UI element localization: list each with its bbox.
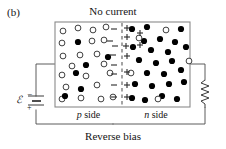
battery-negative-terminal-label: − xyxy=(27,90,32,99)
hole-marker xyxy=(60,53,66,59)
electron-marker xyxy=(178,67,184,73)
hole-marker xyxy=(128,70,134,76)
electron-marker xyxy=(174,96,180,102)
diagram-title: No current xyxy=(0,6,226,17)
hole-marker xyxy=(107,70,113,76)
wire-right-upper xyxy=(190,64,205,80)
figure-reverse-bias-pn-junction: (b) No current p side n side ℰ − + Rever… xyxy=(0,0,226,149)
electron-marker xyxy=(144,70,150,76)
electron-marker xyxy=(75,39,81,45)
electron-marker xyxy=(157,36,163,42)
electron-marker xyxy=(165,49,171,55)
resistor-symbol xyxy=(201,80,209,108)
hole-marker xyxy=(155,96,161,102)
electron-marker xyxy=(129,26,135,32)
electron-marker xyxy=(148,47,154,53)
electron-marker xyxy=(172,39,178,45)
diagram-caption: Reverse bias xyxy=(0,131,226,142)
electron-marker xyxy=(73,70,79,76)
electron-marker xyxy=(183,44,189,50)
electron-marker xyxy=(136,57,142,63)
hole-marker xyxy=(63,84,69,90)
p-side-label-rest: side xyxy=(82,109,101,120)
electron-marker xyxy=(132,81,138,87)
hole-marker xyxy=(136,35,142,41)
hole-marker xyxy=(98,96,104,102)
electron-marker xyxy=(142,97,148,103)
hole-marker xyxy=(101,61,107,67)
electron-marker xyxy=(129,95,135,101)
wire-left-upper xyxy=(36,64,55,96)
hole-marker xyxy=(59,72,65,78)
hole-marker xyxy=(60,28,66,34)
electron-marker xyxy=(83,62,89,68)
n-side-label-rest: side xyxy=(149,109,168,120)
electron-marker xyxy=(130,44,136,50)
hole-marker xyxy=(75,25,81,31)
electron-marker xyxy=(144,24,150,30)
hole-marker xyxy=(103,24,109,30)
electron-marker xyxy=(78,86,84,92)
hole-marker xyxy=(69,63,75,69)
hole-marker xyxy=(101,37,107,43)
emf-symbol-label: ℰ xyxy=(16,95,22,105)
hole-marker xyxy=(163,27,169,33)
hole-marker xyxy=(94,51,100,57)
hole-marker xyxy=(94,82,100,88)
electron-marker xyxy=(153,60,159,66)
electron-marker xyxy=(181,79,187,85)
n-side-label: n side xyxy=(122,110,190,120)
resistor-zigzag xyxy=(201,80,209,108)
battery-positive-terminal-label: + xyxy=(27,104,32,112)
hole-marker xyxy=(89,38,95,44)
hole-marker xyxy=(186,58,192,64)
electron-marker xyxy=(149,83,155,89)
hole-marker xyxy=(59,40,65,46)
electron-marker xyxy=(169,58,175,64)
electron-marker xyxy=(161,71,167,77)
hole-marker xyxy=(83,73,89,79)
hole-marker xyxy=(78,95,84,101)
diagram-canvas xyxy=(0,0,226,149)
hole-marker xyxy=(77,52,83,58)
electron-marker xyxy=(62,93,68,99)
electron-marker xyxy=(178,26,184,32)
p-side-label: p side xyxy=(55,110,122,120)
electron-marker xyxy=(166,81,172,87)
hole-marker xyxy=(90,27,96,33)
